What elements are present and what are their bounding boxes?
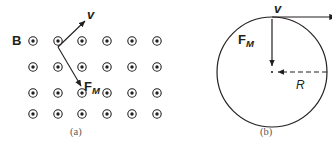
field-dot	[103, 89, 111, 97]
field-dot	[54, 89, 62, 97]
magnetic-force-label: FM	[84, 80, 100, 93]
field-dot	[128, 37, 136, 45]
field-dot	[54, 110, 62, 118]
velocity-label: v	[274, 2, 281, 15]
radius-label: R	[296, 79, 305, 91]
magnetic-force-label: FM	[238, 33, 254, 46]
velocity-vector-arrow	[58, 21, 85, 47]
field-dot	[78, 37, 86, 45]
circle-center-point	[271, 71, 273, 73]
field-dot	[128, 110, 136, 118]
field-dot	[78, 110, 86, 118]
panel-a-caption: (a)	[70, 126, 82, 137]
magnetic-force-label-sub: M	[246, 38, 254, 49]
field-dot	[29, 63, 37, 71]
field-dot	[153, 89, 161, 97]
panel-a: B v FM (a)	[0, 0, 166, 144]
field-dot	[153, 63, 161, 71]
physics-figure-magnetic-force: B v FM (a) v FM	[0, 0, 332, 144]
field-dot	[54, 63, 62, 71]
field-dot	[128, 89, 136, 97]
field-dot	[29, 89, 37, 97]
field-dot	[153, 110, 161, 118]
magnetic-force-label-sub: M	[92, 85, 100, 96]
field-dot	[103, 37, 111, 45]
magnetic-force-label-base: F	[84, 79, 92, 94]
field-dot	[153, 37, 161, 45]
field-dot	[78, 63, 86, 71]
field-dot	[103, 110, 111, 118]
field-dot	[29, 37, 37, 45]
field-dot	[128, 63, 136, 71]
panel-b-graphics	[166, 0, 332, 144]
magnetic-force-label-base: F	[238, 32, 246, 47]
panel-b: v FM R (b)	[166, 0, 332, 144]
field-dot	[29, 110, 37, 118]
panel-b-caption: (b)	[260, 126, 272, 137]
velocity-label: v	[87, 8, 94, 21]
field-dot	[103, 63, 111, 71]
magnetic-field-dot-grid	[29, 37, 161, 118]
panel-a-graphics	[0, 0, 166, 144]
field-label-b: B	[12, 34, 21, 47]
